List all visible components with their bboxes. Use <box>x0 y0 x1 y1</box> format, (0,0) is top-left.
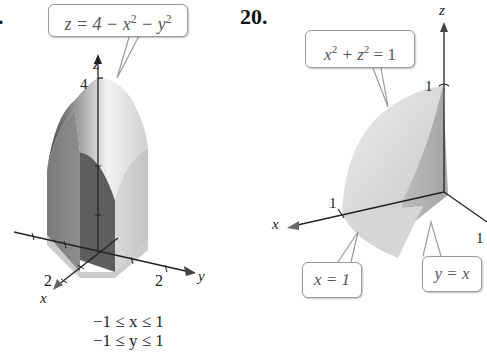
x-axis-arrow <box>287 221 299 230</box>
constraint-y: −1 ≤ y ≤ 1 <box>93 331 164 350</box>
constraint-x: −1 ≤ x ≤ 1 <box>93 312 164 331</box>
callout-paraboloid-equation: z = 4 − x2 − y2 <box>48 4 188 37</box>
z-axis-arrow <box>440 22 448 32</box>
z-axis-label: z <box>439 2 445 19</box>
x-tick-1: 1 <box>329 195 337 212</box>
paraboloid-solid-graphic <box>0 0 243 352</box>
callout-plane-x-equals-1: x = 1 <box>302 262 362 298</box>
z-tick-1: 1 <box>425 78 433 95</box>
x-axis-label: x <box>40 290 47 307</box>
y-tick-2: 2 <box>155 272 163 290</box>
z-tick-4: 4 <box>80 76 88 93</box>
y-axis-label: y <box>198 268 205 285</box>
x-axis-label: x <box>272 216 279 233</box>
domain-constraints: −1 ≤ x ≤ 1 −1 ≤ y ≤ 1 <box>93 312 164 350</box>
callout-cylinder-equation: x2 + z2 = 1 <box>305 30 415 68</box>
x-tick-2: 2 <box>44 272 52 290</box>
callout-plane-y-equals-x: y = x <box>422 256 482 292</box>
z-axis-label: z <box>93 56 99 73</box>
figure-paraboloid-solid: . <box>0 0 243 352</box>
y-axis <box>444 192 487 222</box>
x-axis-arrow <box>53 279 63 290</box>
figure-cylinder-wedge: 20. x <box>243 0 487 352</box>
y-tick-1: 1 <box>476 230 484 247</box>
y-axis-arrow <box>184 266 196 276</box>
